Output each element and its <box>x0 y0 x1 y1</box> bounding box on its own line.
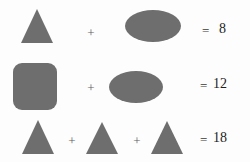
triangle-shape <box>21 9 53 43</box>
equation-row: + = 8 <box>0 0 250 54</box>
equation-result: 12 <box>213 77 227 91</box>
shape-equation-puzzle: + = 8 + = 12 + <box>0 0 250 162</box>
ellipse-shape <box>125 10 181 42</box>
equals-sign: = <box>200 133 207 146</box>
rounded-square-shape <box>13 63 57 110</box>
equation-result: 8 <box>219 22 226 36</box>
equation-row: + + = 18 <box>0 110 250 162</box>
triangle-shape <box>22 120 54 154</box>
plus-operator: + <box>65 134 79 147</box>
plus-operator: + <box>84 81 98 94</box>
plus-operator: + <box>130 134 144 147</box>
equation-row: + = 12 <box>0 54 250 110</box>
triangle-shape <box>86 122 118 154</box>
equation-result: 18 <box>213 131 227 145</box>
plus-operator: + <box>84 26 98 39</box>
equals-sign: = <box>202 24 209 37</box>
triangle-shape <box>151 121 183 154</box>
ellipse-shape <box>109 71 163 103</box>
equals-sign: = <box>200 79 207 92</box>
